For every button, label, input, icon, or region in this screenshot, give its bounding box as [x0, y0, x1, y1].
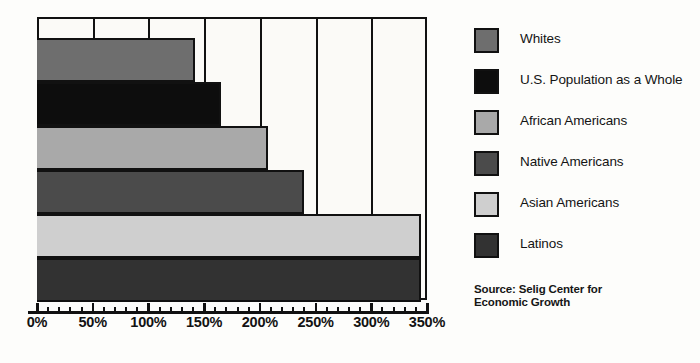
- tick-minor-110: [159, 307, 161, 314]
- tick-major-250: [315, 303, 318, 314]
- legend-item-label: Latinos: [520, 236, 563, 251]
- tick-major-300: [370, 303, 373, 314]
- bar-series: [37, 38, 427, 300]
- tick-minor-70: [114, 307, 116, 314]
- x-tick-label-200: 200%: [242, 314, 278, 330]
- tick-minor-130: [181, 307, 183, 314]
- tick-minor-330: [404, 307, 406, 314]
- tick-minor-190: [248, 307, 250, 314]
- tick-minor-170: [225, 307, 227, 314]
- tick-minor-180: [237, 307, 239, 314]
- x-tick-label-300: 300%: [353, 314, 389, 330]
- legend-item-label: African Americans: [520, 113, 627, 128]
- tick-minor-20: [58, 307, 60, 314]
- legend-swatch-icon: [474, 69, 499, 94]
- bar-row: [37, 170, 427, 214]
- bar-latinos[interactable]: [37, 258, 421, 302]
- legend-swatch-icon: [474, 151, 499, 176]
- tick-minor-290: [359, 307, 361, 314]
- legend-item[interactable]: African Americans: [474, 110, 696, 151]
- tick-major-50: [92, 303, 95, 314]
- tick-minor-240: [303, 307, 305, 314]
- bar-asian-americans[interactable]: [37, 214, 421, 258]
- x-axis-tick-labels: 0%50%100%150%200%250%300%350%: [0, 314, 470, 336]
- bar-row: [37, 82, 427, 126]
- legend-item[interactable]: Asian Americans: [474, 192, 696, 233]
- legend-item[interactable]: Latinos: [474, 233, 696, 274]
- tick-major-100: [147, 303, 150, 314]
- tick-minor-340: [415, 307, 417, 314]
- x-tick-label-50: 50%: [78, 314, 106, 330]
- tick-minor-140: [192, 307, 194, 314]
- bar-row: [37, 258, 427, 302]
- legend-swatch-icon: [474, 110, 499, 135]
- tick-minor-280: [348, 307, 350, 314]
- tick-minor-10: [47, 307, 49, 314]
- tick-minor-310: [381, 307, 383, 314]
- tick-minor-230: [292, 307, 294, 314]
- legend-item[interactable]: Native Americans: [474, 151, 696, 192]
- source-note: Source: Selig Center for Economic Growth: [474, 283, 674, 309]
- bar-row: [37, 126, 427, 170]
- tick-minor-160: [214, 307, 216, 314]
- tick-minor-210: [270, 307, 272, 314]
- legend-item-label: U.S. Population as a Whole: [520, 72, 683, 87]
- x-tick-label-350: 350%: [409, 314, 445, 330]
- x-tick-label-150: 150%: [186, 314, 222, 330]
- tick-major-0: [36, 303, 39, 314]
- tick-minor-260: [326, 307, 328, 314]
- legend-item-label: Native Americans: [520, 154, 623, 169]
- x-tick-label-250: 250%: [297, 314, 333, 330]
- legend-swatch-icon: [474, 233, 499, 258]
- tick-minor-40: [81, 307, 83, 314]
- source-line-1: Source: Selig Center for: [474, 283, 674, 296]
- plot-area: [37, 17, 427, 300]
- x-tick-label-0: 0%: [27, 314, 48, 330]
- tick-minor-320: [393, 307, 395, 314]
- tick-minor-30: [69, 307, 71, 314]
- legend-item-label: Asian Americans: [520, 195, 619, 210]
- legend-swatch-icon: [474, 28, 499, 53]
- tick-minor-220: [281, 307, 283, 314]
- tick-major-150: [203, 303, 206, 314]
- tick-major-350: [426, 303, 429, 314]
- bar-african-americans[interactable]: [37, 126, 268, 170]
- tick-minor-80: [125, 307, 127, 314]
- tick-minor-90: [136, 307, 138, 314]
- x-tick-label-100: 100%: [130, 314, 166, 330]
- source-line-2: Economic Growth: [474, 296, 674, 309]
- legend-item[interactable]: U.S. Population as a Whole: [474, 69, 696, 110]
- tick-minor-270: [337, 307, 339, 314]
- chart-container: 0%50%100%150%200%250%300%350% WhitesU.S.…: [0, 0, 700, 363]
- tick-minor-120: [170, 307, 172, 314]
- bar-native-americans[interactable]: [37, 170, 304, 214]
- tick-minor-60: [103, 307, 105, 314]
- legend-item-label: Whites: [520, 31, 561, 46]
- bar-u-s-population-as-a-whole[interactable]: [37, 82, 221, 126]
- tick-major-200: [259, 303, 262, 314]
- bar-whites[interactable]: [37, 38, 195, 82]
- bar-row: [37, 214, 427, 258]
- legend-item[interactable]: Whites: [474, 28, 696, 69]
- x-axis: [37, 300, 427, 314]
- legend: WhitesU.S. Population as a WholeAfrican …: [474, 28, 696, 274]
- bar-row: [37, 38, 427, 82]
- legend-swatch-icon: [474, 192, 499, 217]
